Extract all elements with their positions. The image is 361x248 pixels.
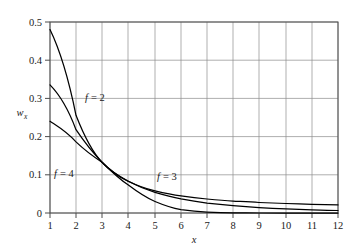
y-tick-labels: 0.5 0.4 0.3 0.2 0.1 0 <box>29 17 43 219</box>
curve-f-2 <box>50 30 338 205</box>
y-axis-title-base: w <box>17 107 24 118</box>
x-tick-labels: 1 2 3 4 5 6 7 8 9 10 11 12 <box>47 220 343 231</box>
series-label-f-4-symbol: f <box>54 168 59 179</box>
curve-f-4 <box>50 121 338 213</box>
x-tick-label: 12 <box>333 220 344 231</box>
chart-figure: 0.5 0.4 0.3 0.2 0.1 0 1 2 3 4 5 6 7 8 9 … <box>0 0 361 248</box>
series-label-f-2: f= 2 <box>85 92 105 103</box>
plot-frame <box>50 22 338 213</box>
x-tickmarks <box>50 213 338 218</box>
y-tick-label: 0.1 <box>29 169 42 180</box>
series-label-f-4-value: = 4 <box>60 168 75 179</box>
series-label-f-4: f= 4 <box>54 168 74 179</box>
x-tick-label: 9 <box>256 220 261 231</box>
curve-f-3 <box>50 85 338 211</box>
y-tick-label: 0.5 <box>29 17 42 28</box>
series-label-f-3-symbol: f <box>157 171 162 182</box>
x-tick-label: 5 <box>152 220 157 231</box>
x-tick-label: 10 <box>281 220 292 231</box>
x-tick-label: 8 <box>230 220 235 231</box>
x-tick-label: 4 <box>125 220 131 231</box>
x-tick-label: 1 <box>47 220 52 231</box>
x-tick-label: 6 <box>178 220 183 231</box>
y-tick-label: 0.3 <box>29 93 42 104</box>
grid-vertical <box>50 22 338 213</box>
x-tick-label: 3 <box>99 220 104 231</box>
series-annotations: f= 2 f= 3 f= 4 <box>54 92 177 182</box>
series-label-f-2-symbol: f <box>85 92 90 103</box>
x-tick-label: 2 <box>73 220 78 231</box>
y-axis-title: wx <box>17 107 29 121</box>
y-tick-label: 0.4 <box>29 55 43 66</box>
y-tickmarks <box>45 22 50 213</box>
chart-canvas: 0.5 0.4 0.3 0.2 0.1 0 1 2 3 4 5 6 7 8 9 … <box>0 0 361 248</box>
x-tick-label: 11 <box>307 220 317 231</box>
series-label-f-3-value: = 3 <box>163 171 177 182</box>
grid-horizontal <box>50 22 338 213</box>
y-tick-label: 0 <box>37 208 42 219</box>
y-axis-title-subscript: x <box>23 112 28 121</box>
y-tick-label: 0.2 <box>29 131 42 142</box>
series-label-f-2-value: = 2 <box>91 92 105 103</box>
x-tick-label: 7 <box>204 220 209 231</box>
x-axis-title: x <box>191 234 197 245</box>
series-label-f-3: f= 3 <box>157 171 177 182</box>
